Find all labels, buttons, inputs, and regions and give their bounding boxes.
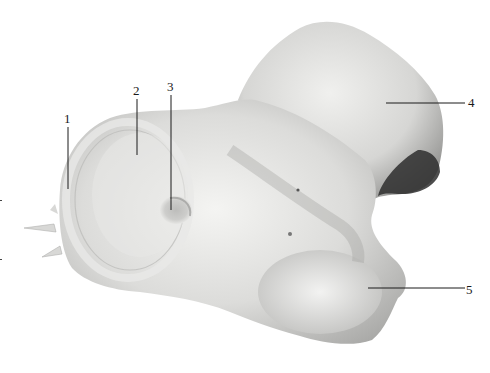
- label-5: 5: [466, 283, 473, 296]
- label-3: 3: [167, 80, 174, 93]
- articular-surface: [92, 133, 188, 257]
- specimen-figure: [0, 0, 490, 373]
- fovea-pit: [160, 196, 192, 224]
- spines: [24, 204, 62, 257]
- label-4: 4: [468, 96, 475, 109]
- label-2: 2: [133, 84, 140, 97]
- label-1: 1: [64, 112, 71, 125]
